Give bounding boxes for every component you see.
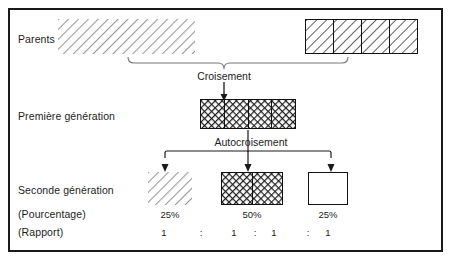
f1-hybrid-block: [200, 99, 296, 129]
row-label-parents: Parents: [18, 33, 55, 45]
percentage-f2-hybrid: 50%: [227, 209, 277, 220]
genetics-cross-diagram: Parents Croisement Première génération A…: [0, 0, 453, 261]
parent-right-block: [305, 19, 418, 54]
f2-hybrid-block: [221, 172, 283, 205]
label-autocroisement: Autocroisement: [196, 136, 306, 148]
label-croisement: Croisement: [174, 70, 274, 82]
row-label-first-generation: Première génération: [18, 110, 115, 122]
percentage-f2-recessive: 25%: [303, 209, 353, 220]
row-label-percentage: (Pourcentage): [18, 208, 86, 220]
f2-hybrid-cells: [222, 173, 282, 204]
row-label-ratio: (Rapport): [18, 226, 63, 238]
parent-right-cells: [306, 20, 417, 53]
ratio-value-3: 1: [262, 227, 286, 238]
ratio-value-1: 1: [152, 227, 176, 238]
parent-left-block: [58, 19, 195, 54]
row-label-second-generation: Seconde génération: [18, 184, 114, 196]
percentage-f2-dominant: 25%: [145, 209, 195, 220]
f2-dominant-block: [148, 172, 192, 205]
ratio-separator-1: :: [189, 227, 213, 238]
f2-recessive-block: [308, 172, 348, 205]
f1-hybrid-cells: [201, 100, 295, 128]
ratio-value-4: 1: [316, 227, 340, 238]
